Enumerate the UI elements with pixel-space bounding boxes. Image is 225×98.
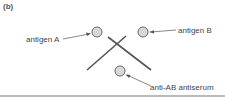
leader-line-antiserum bbox=[127, 75, 151, 86]
leader-line-a bbox=[63, 34, 89, 39]
label-antigen-b: antigen B bbox=[178, 26, 212, 35]
well-antiserum bbox=[115, 66, 125, 76]
leader-line-b bbox=[151, 30, 176, 32]
precipitin-line-a bbox=[87, 36, 126, 70]
label-antigen-a: antigen A bbox=[26, 35, 59, 44]
label-antiserum: anti-AB antiserum bbox=[150, 83, 214, 92]
arrow-head-b bbox=[149, 30, 154, 33]
arrow-head-a bbox=[86, 33, 91, 37]
precipitin-line-b bbox=[108, 37, 151, 70]
well-antigen-a bbox=[92, 27, 102, 37]
arrow-head-antiserum bbox=[126, 75, 131, 79]
well-antigen-b bbox=[138, 27, 148, 37]
